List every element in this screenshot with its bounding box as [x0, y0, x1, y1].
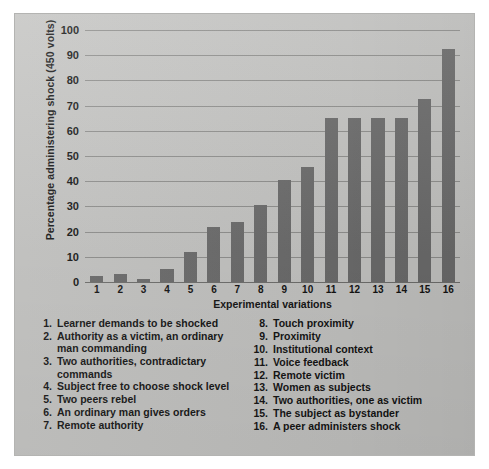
x-tick-label: 4 — [155, 284, 178, 295]
bar — [137, 279, 150, 282]
legend-column-right: 8.Touch proximity9.Proximity10.Instituti… — [249, 317, 465, 447]
bar — [207, 227, 220, 282]
legend-item: 7.Remote authority — [33, 419, 241, 431]
legend: 1.Learner demands to be shocked2.Authori… — [33, 317, 465, 447]
legend-item: 9.Proximity — [249, 330, 465, 342]
legend-item: 1.Learner demands to be shocked — [33, 317, 241, 329]
y-tick-label: 70 — [67, 100, 79, 112]
legend-item: 4.Subject free to choose shock level — [33, 380, 241, 392]
x-tick-label: 14 — [390, 284, 413, 295]
legend-item: 8.Touch proximity — [249, 317, 465, 329]
legend-item: 2.Authority as a victim, an ordinary man… — [33, 330, 241, 355]
x-tick-label: 8 — [249, 284, 272, 295]
legend-item-label: A peer administers shock — [273, 420, 465, 432]
x-tick-label: 1 — [85, 284, 108, 295]
legend-item-number: 13. — [249, 381, 268, 393]
bar — [348, 118, 361, 282]
legend-item-number: 15. — [249, 407, 268, 419]
legend-item-number: 3. — [33, 355, 52, 380]
bar-column — [108, 30, 131, 282]
bar — [371, 118, 384, 282]
legend-item: 12.Remote victim — [249, 369, 465, 381]
legend-item-label: Two authorities, one as victim — [273, 394, 465, 406]
bar — [231, 222, 244, 282]
legend-item: 16.A peer administers shock — [249, 420, 465, 432]
bar-column — [343, 30, 366, 282]
legend-item-number: 8. — [249, 317, 268, 329]
legend-item: 6.An ordinary man gives orders — [33, 406, 241, 418]
legend-item-number: 10. — [249, 343, 268, 355]
bar — [90, 276, 103, 282]
legend-item-label: Learner demands to be shocked — [57, 317, 241, 329]
y-axis-label: Percentage administering shock (450 volt… — [44, 15, 56, 245]
y-tick-label: 0 — [73, 276, 79, 288]
y-tick-label: 80 — [67, 74, 79, 86]
x-tick-label: 3 — [132, 284, 155, 295]
bar — [325, 118, 338, 282]
y-tick-label: 90 — [67, 49, 79, 61]
y-tick-label: 30 — [67, 200, 79, 212]
y-tick-label: 100 — [61, 24, 79, 36]
legend-item-number: 2. — [33, 330, 52, 355]
legend-item-label: Proximity — [273, 330, 465, 342]
x-tick-label: 9 — [273, 284, 296, 295]
legend-item-label: Authority as a victim, an ordinary man c… — [57, 330, 241, 355]
bar-column — [132, 30, 155, 282]
bar-series — [85, 30, 460, 282]
bar — [442, 49, 455, 282]
legend-item-label: The subject as bystander — [273, 407, 465, 419]
legend-item: 13.Women as subjects — [249, 381, 465, 393]
legend-item-number: 1. — [33, 317, 52, 329]
legend-item-label: Remote authority — [57, 419, 241, 431]
x-tick-label: 12 — [343, 284, 366, 295]
legend-item-number: 16. — [249, 420, 268, 432]
x-tick-label: 2 — [108, 284, 131, 295]
bar-column — [413, 30, 436, 282]
y-tick-label: 10 — [67, 251, 79, 263]
legend-item-number: 9. — [249, 330, 268, 342]
plot-area: 0102030405060708090100 — [85, 30, 460, 282]
legend-item-label: Institutional context — [273, 343, 465, 355]
y-tick-label: 40 — [67, 175, 79, 187]
bar-column — [155, 30, 178, 282]
figure-panel: Percentage administering shock (450 volt… — [14, 13, 475, 456]
legend-item-label: Two authorities, contradictary commands — [57, 355, 241, 380]
bar — [418, 99, 431, 282]
x-tick-label: 6 — [202, 284, 225, 295]
bar-column — [366, 30, 389, 282]
legend-item-label: Two peers rebel — [57, 393, 241, 405]
legend-item-label: Voice feedback — [273, 356, 465, 368]
bar-column — [296, 30, 319, 282]
bar-column — [202, 30, 225, 282]
bar-chart: Percentage administering shock (450 volt… — [15, 14, 476, 304]
legend-item: 3.Two authorities, contradictary command… — [33, 355, 241, 380]
legend-column-left: 1.Learner demands to be shocked2.Authori… — [33, 317, 241, 447]
y-tick-label: 20 — [67, 226, 79, 238]
bar-column — [85, 30, 108, 282]
legend-item-label: Touch proximity — [273, 317, 465, 329]
bar-column — [437, 30, 460, 282]
legend-item-label: Women as subjects — [273, 381, 465, 393]
bar — [160, 269, 173, 282]
gridline-0: 0 — [85, 282, 460, 283]
legend-item: 11.Voice feedback — [249, 356, 465, 368]
bar — [254, 205, 267, 282]
legend-item-label: An ordinary man gives orders — [57, 406, 241, 418]
x-tick-label: 10 — [296, 284, 319, 295]
legend-item-number: 6. — [33, 406, 52, 418]
x-tick-label: 16 — [437, 284, 460, 295]
bar-column — [249, 30, 272, 282]
bar-column — [319, 30, 342, 282]
legend-item: 15.The subject as bystander — [249, 407, 465, 419]
bar — [301, 167, 314, 282]
legend-item-number: 11. — [249, 356, 268, 368]
x-tick-label: 5 — [179, 284, 202, 295]
legend-item-number: 4. — [33, 380, 52, 392]
x-tick-label: 13 — [366, 284, 389, 295]
x-axis-ticks: 12345678910111213141516 — [85, 284, 460, 295]
x-tick-label: 15 — [413, 284, 436, 295]
x-tick-label: 7 — [226, 284, 249, 295]
legend-item-number: 5. — [33, 393, 52, 405]
x-axis-label: Experimental variations — [85, 298, 460, 310]
bar — [184, 252, 197, 282]
